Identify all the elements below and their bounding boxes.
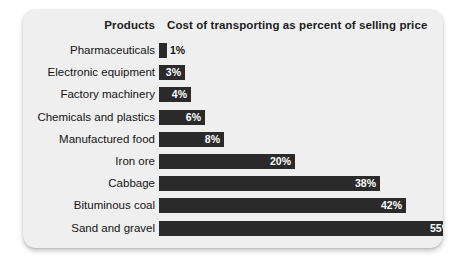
bar-row: Factory machinery4%: [23, 87, 443, 102]
bar-row: Electronic equipment3%: [23, 65, 443, 80]
bar-fill: [159, 43, 167, 58]
column-header-products: Products: [23, 19, 155, 31]
bar-value-label: 20%: [270, 154, 291, 169]
bar-track: 38%: [159, 176, 440, 191]
bar-value-label: 8%: [205, 132, 220, 147]
bar-row-label: Manufactured food: [23, 132, 155, 147]
bar-row-label: Pharmaceuticals: [23, 43, 155, 58]
bar-row: Cabbage38%: [23, 176, 443, 191]
bar-track: 8%: [159, 132, 284, 147]
chart-body: Products Cost of transporting as percent…: [23, 9, 443, 248]
bar-row: Bituminous coal42%: [23, 198, 443, 213]
chart-card: Products Cost of transporting as percent…: [23, 9, 443, 248]
bar-value-label: 6%: [186, 110, 201, 125]
bar-value-label: 1%: [170, 43, 185, 58]
bar-row: Iron ore20%: [23, 154, 443, 169]
column-header-cost: Cost of transporting as percent of selli…: [167, 19, 427, 31]
bar-row: Pharmaceuticals1%: [23, 43, 443, 58]
bar-row-label: Iron ore: [23, 154, 155, 169]
bar-track: 55%: [159, 221, 443, 236]
bar-row-label: Sand and gravel: [23, 221, 155, 236]
bar-row-label: Electronic equipment: [23, 65, 155, 80]
bar-fill: [159, 176, 380, 191]
bar-row-label: Bituminous coal: [23, 198, 155, 213]
bar-row: Chemicals and plastics6%: [23, 110, 443, 125]
bar-value-label: 3%: [166, 65, 181, 80]
bar-value-label: 42%: [381, 198, 402, 213]
bar-row: Sand and gravel55%: [23, 221, 443, 236]
bar-row: Manufactured food8%: [23, 132, 443, 147]
bar-row-label: Chemicals and plastics: [23, 110, 155, 125]
bar-track: 20%: [159, 154, 355, 169]
bar-value-label: 4%: [172, 87, 187, 102]
bar-value-label: 55%: [430, 221, 443, 236]
bar-row-label: Cabbage: [23, 176, 155, 191]
bar-track: 6%: [159, 110, 265, 125]
bar-fill: [159, 198, 406, 213]
bar-track: 42%: [159, 198, 443, 213]
bar-track: 4%: [159, 87, 251, 102]
bar-track: 3%: [159, 65, 245, 80]
bar-row-label: Factory machinery: [23, 87, 155, 102]
chart-header: Products Cost of transporting as percent…: [23, 19, 443, 39]
bar-track: 1%: [159, 43, 227, 58]
bar-value-label: 38%: [355, 176, 376, 191]
bar-fill: [159, 221, 443, 236]
